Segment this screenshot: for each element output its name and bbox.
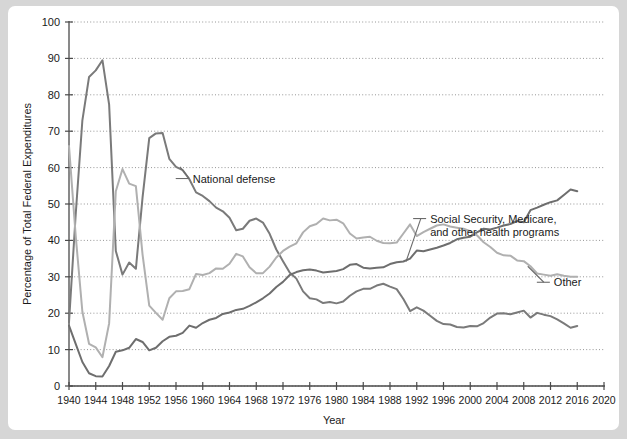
- series-label-line: Other: [554, 276, 582, 288]
- y-tick-label-10: 10: [48, 344, 60, 356]
- x-tick-label-1972: 1972: [271, 394, 295, 406]
- chart-svg: 0102030405060708090100 19401944194819521…: [0, 0, 627, 439]
- x-tick-label-1996: 1996: [432, 394, 456, 406]
- x-axis-title: Year: [323, 414, 346, 426]
- series-annotations: National defenseSocial Security, Medicar…: [176, 167, 582, 288]
- y-tick-label-80: 80: [48, 89, 60, 101]
- x-tick-label-1956: 1956: [164, 394, 188, 406]
- x-tick-marks: [69, 382, 604, 390]
- x-tick-label-1944: 1944: [84, 394, 108, 406]
- x-tick-label-1988: 1988: [378, 394, 402, 406]
- x-tick-label-2016: 2016: [566, 394, 590, 406]
- y-tick-label-50: 50: [48, 198, 60, 210]
- y-tick-label-40: 40: [48, 234, 60, 246]
- x-tick-label-1976: 1976: [298, 394, 322, 406]
- x-tick-label-1960: 1960: [191, 394, 215, 406]
- national-defense-leader-hook: [180, 167, 189, 179]
- y-tick-labels: 0102030405060708090100: [42, 16, 60, 392]
- series-label-line: Social Security, Medicare,: [430, 213, 556, 225]
- federal-expenditures-chart: 0102030405060708090100 19401944194819521…: [0, 0, 627, 439]
- y-tick-label-100: 100: [42, 16, 60, 28]
- y-tick-label-0: 0: [54, 380, 60, 392]
- series-label-1: Social Security, Medicare,and other heal…: [430, 213, 560, 238]
- y-tick-label-20: 20: [48, 307, 60, 319]
- y-tick-label-60: 60: [48, 162, 60, 174]
- x-tick-label-2004: 2004: [485, 394, 509, 406]
- x-tick-label-2000: 2000: [459, 394, 483, 406]
- series-label-2: Other: [554, 276, 582, 288]
- series-label-line: National defense: [193, 173, 276, 185]
- x-tick-label-2020: 2020: [592, 394, 616, 406]
- x-tick-label-1984: 1984: [352, 394, 376, 406]
- y-tick-label-30: 30: [48, 271, 60, 283]
- x-tick-label-1968: 1968: [245, 394, 269, 406]
- x-tick-label-1948: 1948: [111, 394, 135, 406]
- series-label-0: National defense: [193, 173, 276, 185]
- x-tick-label-1980: 1980: [325, 394, 349, 406]
- series-line-0: [69, 60, 577, 328]
- series-label-line: and other health programs: [430, 226, 560, 238]
- x-tick-label-1952: 1952: [138, 394, 162, 406]
- axes: [69, 21, 605, 386]
- x-tick-label-1964: 1964: [218, 394, 242, 406]
- x-tick-label-2008: 2008: [512, 394, 536, 406]
- gridlines: [71, 22, 605, 386]
- x-tick-label-1992: 1992: [405, 394, 429, 406]
- y-tick-label-90: 90: [48, 52, 60, 64]
- x-tick-label-1940: 1940: [57, 394, 81, 406]
- x-tick-label-2012: 2012: [539, 394, 563, 406]
- y-tick-label-70: 70: [48, 125, 60, 137]
- x-tick-labels: 1940194419481952195619601964196819721976…: [57, 394, 616, 406]
- y-axis-title: Percentage of Total Federal Expenditures: [21, 102, 33, 305]
